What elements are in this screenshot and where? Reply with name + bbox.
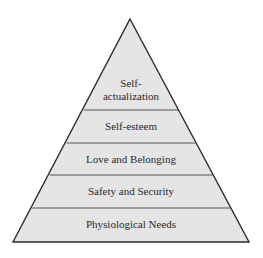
pyramid-diagram: Self- actualization Self-esteem Love and… [0,0,263,258]
level-self-esteem: Self-esteem [105,120,157,132]
level-safety-security: Safety and Security [88,185,175,197]
level-love-belonging: Love and Belonging [86,153,176,165]
level-self-actualization-line2: actualization [103,90,160,102]
level-self-actualization-line1: Self- [120,77,142,89]
level-physiological-needs: Physiological Needs [86,218,176,230]
